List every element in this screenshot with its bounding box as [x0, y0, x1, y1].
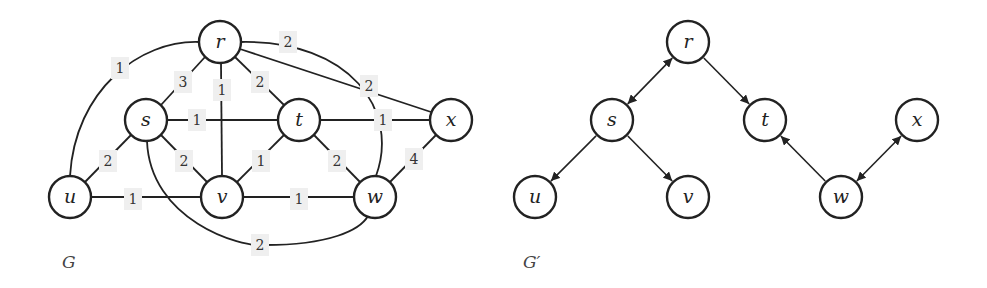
gp-node-v: v	[667, 176, 709, 218]
weight-label: 1	[257, 153, 266, 169]
node-label: v	[683, 185, 694, 207]
edge-weight-r-u: 1	[111, 57, 129, 79]
node-label: u	[529, 185, 541, 207]
graph-g-prime-nodes: rstxuvw	[514, 21, 938, 218]
gp-node-u: u	[514, 176, 556, 218]
gp-node-t: t	[744, 99, 786, 141]
edge-weight-t-w: 2	[328, 150, 346, 172]
node-label: u	[64, 185, 76, 207]
graph-g-caption: G	[62, 252, 76, 272]
g-node-t: t	[278, 99, 320, 141]
edge-weight-u-v: 1	[124, 188, 142, 210]
edge-weight-s-t: 1	[188, 109, 206, 131]
edge-weight-v-w: 1	[290, 188, 308, 210]
node-label: v	[217, 185, 228, 207]
edge-weight-r-v: 1	[213, 79, 231, 101]
directed-edge-w-x	[857, 136, 901, 181]
weight-label: 2	[104, 153, 113, 169]
gp-node-s: s	[591, 99, 633, 141]
edge-weight-r-w: 2	[279, 31, 297, 53]
weight-label: 1	[218, 82, 227, 98]
node-label: t	[761, 108, 769, 130]
g-node-v: v	[201, 176, 243, 218]
graph-g-prime: rstxuvw G′	[514, 21, 938, 272]
weight-label: 2	[365, 78, 374, 94]
weight-label: 2	[256, 74, 265, 90]
g-node-w: w	[354, 176, 396, 218]
edge-weight-x-w: 4	[405, 148, 423, 170]
weight-label: 3	[179, 74, 188, 90]
g-node-s: s	[125, 99, 167, 141]
weight-label: 1	[379, 112, 388, 128]
node-label: w	[367, 185, 383, 207]
weight-label: 2	[256, 237, 265, 253]
weight-label: 2	[180, 153, 189, 169]
g-node-u: u	[49, 176, 91, 218]
directed-edge-w-t	[781, 136, 825, 181]
node-label: x	[446, 108, 457, 130]
directed-edge-r-t	[704, 58, 749, 104]
graph-g-prime-caption: G′	[523, 252, 541, 272]
node-label: s	[141, 108, 151, 130]
edge-weight-r-t: 2	[251, 71, 269, 93]
node-label: s	[607, 108, 617, 130]
g-node-r: r	[199, 21, 241, 63]
weight-label: 1	[295, 191, 304, 207]
gp-node-x: x	[896, 99, 938, 141]
edge-weight-t-v: 1	[252, 150, 270, 172]
edge-weight-r-x: 2	[360, 75, 378, 97]
edge-weight-s-w: 2	[251, 234, 269, 256]
directed-edge-s-v	[628, 136, 672, 181]
edge-weight-t-x: 1	[374, 109, 392, 131]
edge-weight-r-s: 3	[174, 71, 192, 93]
graph-canvas: 1312221222112411 rstxuvw G rstxuvw G′	[0, 0, 987, 288]
weight-label: 2	[333, 153, 342, 169]
graph-g: 1312221222112411 rstxuvw G	[49, 21, 472, 272]
weight-label: 1	[116, 60, 125, 76]
g-node-x: x	[430, 99, 472, 141]
weight-label: 4	[410, 151, 419, 167]
node-label: w	[833, 185, 849, 207]
directed-edge-s-u	[551, 136, 596, 181]
edge-weight-s-u: 2	[99, 150, 117, 172]
weight-label: 1	[193, 112, 202, 128]
gp-node-w: w	[820, 176, 862, 218]
node-label: x	[912, 108, 923, 130]
weight-label: 2	[284, 34, 293, 50]
node-label: t	[295, 108, 303, 130]
weight-label: 1	[129, 191, 138, 207]
directed-edge-r-s	[628, 58, 673, 104]
gp-node-r: r	[667, 21, 709, 63]
edge-weight-s-v: 2	[175, 150, 193, 172]
